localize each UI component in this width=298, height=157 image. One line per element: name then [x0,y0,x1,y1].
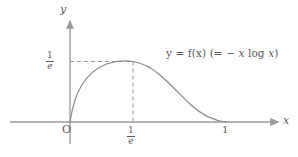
origin-label: O [62,124,71,135]
x-tick-label-inverse-e: 1 e [127,126,135,147]
fraction-numerator: 1 [127,126,135,135]
fraction-denominator: e [46,62,54,71]
math-figure-container: y x O 1 1 e 1 e y = f(x) (= − x log x) [0,0,298,157]
function-curve [70,61,226,122]
equation-suffix: ) [274,47,278,59]
fraction-numerator: 1 [46,51,54,60]
curve-equation-label: y = f(x) (= − x log x) [166,48,278,59]
fraction-denominator: e [127,137,135,146]
equation-log-operator: log [245,47,269,59]
axis-label-x: x [283,115,289,126]
y-tick-label-inverse-e: 1 e [46,51,54,72]
x-tick-label-one: 1 [222,125,228,135]
axis-label-y: y [60,4,66,15]
plot-canvas [0,0,298,157]
equation-prefix: y = f(x) (= − [166,47,239,59]
